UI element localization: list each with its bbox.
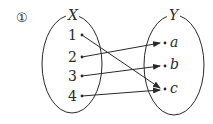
- element-y-b: b: [170, 57, 179, 71]
- arrow-4-to-c: [82, 90, 160, 96]
- element-x-2: 2: [68, 50, 77, 64]
- set-y-label: Y: [169, 8, 178, 22]
- dot-y-c: [164, 88, 167, 91]
- element-x-1: 1: [68, 28, 77, 42]
- set-x-label: X: [68, 8, 78, 22]
- dot-y-a: [164, 42, 167, 45]
- element-y-a: a: [170, 35, 178, 49]
- problem-number: ①: [16, 11, 28, 24]
- mapping-diagram: [0, 0, 213, 124]
- arrow-1-to-c: [82, 35, 160, 88]
- dot-y-b: [164, 65, 167, 68]
- element-x-3: 3: [68, 69, 77, 83]
- arrow-2-to-a: [82, 43, 160, 57]
- arrow-3-to-b: [82, 66, 160, 76]
- element-x-4: 4: [68, 89, 77, 103]
- element-y-c: c: [170, 81, 178, 95]
